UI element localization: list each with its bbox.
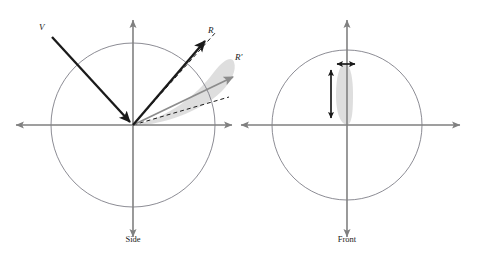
view-label-side: Side — [113, 234, 153, 244]
scatter-lobe-side — [133, 59, 235, 125]
label-vector-v: V — [39, 22, 45, 32]
view-label-front: Front — [327, 234, 367, 244]
vector-r-prime — [133, 77, 233, 125]
front-panel — [241, 20, 460, 237]
diagram-canvas — [0, 0, 478, 257]
side-panel — [16, 20, 235, 237]
label-vector-r-prime: R' — [235, 52, 242, 62]
vector-v — [52, 37, 130, 122]
label-vector-r: R — [208, 25, 214, 35]
reflection-lobe-diagram: V R R' Side Front — [0, 0, 478, 257]
scatter-lobe-front — [336, 64, 353, 125]
